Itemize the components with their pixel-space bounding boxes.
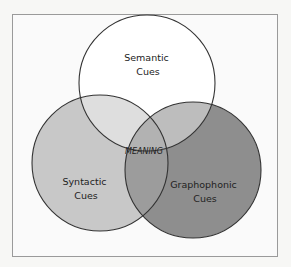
venn-diagram: Semantic Cues Syntactic Cues Graphophoni… xyxy=(0,0,291,267)
meaning-label: MEANING xyxy=(125,147,163,156)
